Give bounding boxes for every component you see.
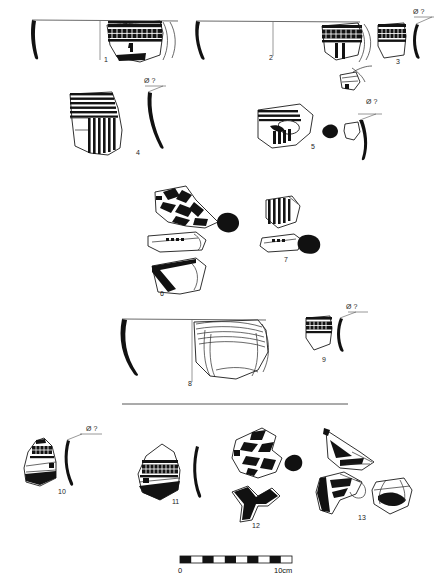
artifact-11: 11 (138, 444, 201, 505)
artifact-number-11: 11 (172, 498, 179, 505)
diameter-label-10: Ø ? (67, 425, 102, 440)
artifact-5: Ø ? 5 (258, 66, 382, 160)
svg-text:Ø ?: Ø ? (366, 98, 377, 105)
artifact-8: 8 (121, 319, 269, 387)
scale-end-label: 10cm (274, 566, 292, 575)
artifact-12: 12 (232, 428, 302, 529)
grid-band-10 (30, 446, 54, 458)
artifact-number-6: 6 (160, 290, 164, 297)
artifact-number-12: 12 (252, 522, 260, 529)
artifact-4: Ø ? 4 (70, 77, 166, 156)
artifact-number-10: 10 (58, 488, 66, 495)
artifact-number-5: 5 (311, 143, 315, 150)
artifact-number-7: 7 (284, 256, 288, 263)
artifact-7: 7 (260, 196, 320, 263)
diameter-label-4: Ø ? (144, 77, 166, 92)
artifact-number-3: 3 (396, 58, 400, 65)
artifact-6: 6 (148, 186, 239, 297)
scale-bar: 0 10cm (178, 556, 292, 575)
svg-text:Ø ?: Ø ? (346, 303, 357, 310)
artifact-9: Ø ? 9 (306, 303, 368, 363)
svg-text:Ø ?: Ø ? (86, 425, 97, 432)
artifact-number-1: 1 (104, 56, 108, 63)
artifact-1: 1 (31, 20, 178, 63)
diameter-label-5: Ø ? (358, 98, 382, 120)
artifact-3: Ø ? 3 (378, 8, 434, 65)
artifact-number-4: 4 (136, 149, 140, 156)
bands-5 (258, 110, 301, 121)
artifact-number-2: 2 (269, 54, 273, 61)
artifact-10: Ø ? 10 (24, 425, 102, 495)
svg-text:Ø ?: Ø ? (413, 8, 424, 15)
scale-start-label: 0 (178, 566, 182, 575)
svg-text:Ø ?: Ø ? (144, 77, 155, 84)
artifact-number-8: 8 (188, 380, 192, 387)
pottery-plate: 1 2 (0, 0, 438, 588)
artifact-number-9: 9 (322, 356, 326, 363)
artifact-2: 2 (195, 21, 370, 82)
artifact-13: 13 (316, 428, 412, 521)
diameter-label-3: Ø ? (413, 8, 434, 24)
diameter-label-9: Ø ? (340, 303, 368, 318)
artifact-number-13: 13 (358, 514, 366, 521)
